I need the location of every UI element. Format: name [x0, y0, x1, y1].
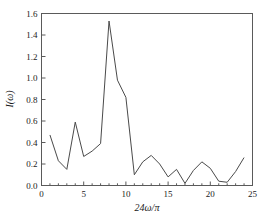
- spectrum-line: [50, 21, 244, 183]
- x-tick-label: 15: [164, 189, 174, 199]
- spectrum-figure: 0.00.20.40.60.81.01.21.41.6 0510152025 2…: [0, 0, 265, 218]
- plot-canvas: 0.00.20.40.60.81.01.21.41.6 0510152025 2…: [0, 0, 265, 218]
- y-tick-label: 0.4: [26, 138, 38, 148]
- x-tick-label: 20: [206, 189, 216, 199]
- y-tick-label: 1.2: [26, 52, 37, 62]
- y-tick-label: 0.2: [26, 159, 37, 169]
- x-axis-tick-labels: 0510152025: [39, 189, 257, 199]
- y-tick-label: 0.8: [26, 95, 38, 105]
- x-axis-tickmarks: [42, 182, 253, 186]
- x-tick-label: 25: [248, 189, 258, 199]
- y-axis-title: I(ω): [4, 90, 16, 109]
- plot-frame: [42, 14, 253, 186]
- y-tick-label: 1.4: [26, 30, 38, 40]
- x-tick-label: 0: [39, 189, 44, 199]
- y-tick-label: 0.6: [26, 116, 38, 126]
- y-tick-label: 1.6: [26, 9, 38, 19]
- y-axis-tickmarks: [42, 14, 46, 186]
- x-axis-title: 24ω/π: [135, 202, 161, 213]
- y-axis-tick-labels: 0.00.20.40.60.81.01.21.41.6: [26, 9, 38, 191]
- y-tick-label: 0.0: [26, 181, 38, 191]
- x-tick-label: 5: [81, 189, 86, 199]
- y-tick-label: 1.0: [26, 73, 38, 83]
- x-tick-label: 10: [121, 189, 131, 199]
